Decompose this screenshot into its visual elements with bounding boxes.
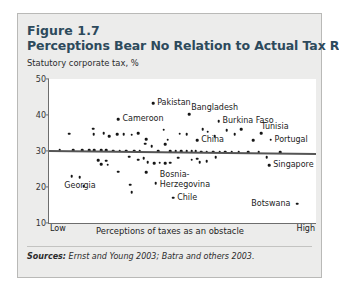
scatter-point: [108, 135, 111, 138]
scatter-point: [215, 156, 218, 159]
scatter-point: [269, 139, 272, 142]
scatter-point: [188, 113, 191, 116]
plot-frame: 5040302010 PakistanBangladeshBurkina Fas…: [48, 79, 316, 224]
scatter-point: [130, 191, 133, 194]
point-label: Portugal: [275, 135, 308, 145]
scatter-point: [116, 133, 119, 136]
scatter-point: [260, 132, 263, 135]
point-label: China: [201, 135, 224, 145]
y-axis-tick-label: 30: [36, 147, 46, 156]
figure-footer: Sources: Ernst and Young 2003; Batra and…: [27, 246, 312, 261]
scatter-point: [97, 159, 100, 162]
scatter-point: [167, 139, 170, 142]
scatter-point: [106, 163, 109, 166]
point-label: Chile: [177, 193, 197, 203]
scatter-point: [217, 120, 220, 123]
scatter-point: [93, 133, 96, 136]
point-label: Georgia: [64, 182, 95, 192]
scatter-point: [92, 127, 95, 130]
scatter-point: [70, 175, 73, 178]
scatter-point: [196, 139, 199, 142]
scatter-point: [117, 118, 120, 121]
scatter-point: [68, 132, 71, 135]
scatter-point: [240, 128, 243, 131]
scatter-point: [169, 161, 172, 164]
y-axis-tick-label: 20: [36, 183, 46, 192]
scatter-point: [179, 132, 182, 135]
scatter-point: [137, 132, 140, 135]
scatter-point: [122, 133, 125, 136]
scatter-point: [164, 143, 167, 146]
sources-text: Ernst and Young 2003; Batra and others 2…: [66, 252, 254, 261]
point-label: Cameroon: [122, 115, 163, 125]
scatter-point: [130, 134, 133, 137]
y-axis-tick-mark: [46, 222, 49, 223]
scatter-point: [196, 157, 199, 160]
x-axis-title: Perceptions of taxes as an obstacle: [24, 226, 316, 236]
point-label: Singapore: [273, 161, 313, 171]
scatter-point: [117, 171, 120, 174]
scatter-point: [265, 156, 268, 159]
figure-card: Figure 1.7 Perceptions Bear No Relation …: [17, 13, 322, 278]
chart-plot-area: 5040302010 PakistanBangladeshBurkina Fas…: [24, 74, 316, 239]
scatter-point: [185, 133, 188, 136]
scatter-point: [225, 129, 228, 132]
scatter-point: [152, 102, 155, 105]
point-label: Tunisia: [261, 122, 288, 132]
scatter-point: [205, 160, 208, 163]
scatter-point: [163, 128, 166, 131]
point-label: Bangladesh: [191, 103, 238, 113]
scatter-point: [201, 128, 204, 131]
scatter-point: [102, 132, 105, 135]
scatter-point: [177, 157, 180, 160]
y-axis-tick-label: 40: [36, 111, 46, 120]
y-axis-tick-mark: [46, 114, 49, 115]
scatter-point: [252, 139, 255, 142]
sources-note: Sources: Ernst and Young 2003; Batra and…: [27, 252, 312, 261]
point-label: Botswana: [251, 199, 290, 209]
figure-subtitle: Statutory corporate tax, %: [27, 58, 315, 69]
scatter-point: [164, 162, 167, 165]
figure-number: Figure 1.7: [27, 23, 315, 38]
scatter-point: [145, 138, 148, 141]
scatter-point: [172, 197, 175, 200]
y-axis-tick-mark: [46, 78, 49, 79]
figure-header: Figure 1.7 Perceptions Bear No Relation …: [27, 23, 315, 69]
scatter-point: [153, 162, 156, 165]
scatter-point: [144, 143, 147, 146]
scatter-point: [137, 158, 140, 161]
figure-title: Perceptions Bear No Relation to Actual T…: [27, 38, 315, 54]
y-axis-tick-label: 50: [36, 75, 46, 84]
scatter-point: [128, 155, 131, 158]
scatter-point: [191, 158, 194, 161]
scatter-point: [207, 130, 210, 133]
scatter-point: [268, 164, 271, 167]
y-axis-tick-mark: [46, 186, 49, 187]
sources-label: Sources:: [27, 252, 66, 261]
point-label: Pakistan: [157, 99, 191, 109]
scatter-point: [155, 182, 158, 185]
scatter-point: [296, 202, 299, 205]
scatter-point: [105, 159, 108, 162]
scatter-point: [233, 133, 236, 136]
point-label: Bosnia-Herzegovina: [160, 170, 210, 188]
scatter-point: [150, 145, 153, 148]
scatter-point: [142, 157, 145, 160]
scatter-point: [145, 171, 148, 174]
scatter-point: [199, 161, 202, 164]
scatter-point: [146, 161, 149, 164]
trend-line: [49, 150, 316, 155]
scatter-point: [159, 162, 162, 165]
scatter-point: [78, 176, 81, 179]
scatter-point: [100, 163, 103, 166]
scatter-point: [129, 184, 132, 187]
